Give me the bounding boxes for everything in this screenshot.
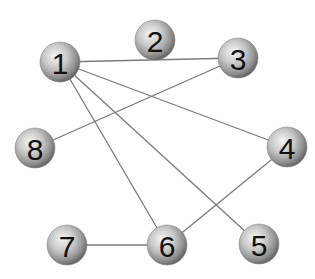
node-8: 8 <box>15 128 55 168</box>
node-2: 2 <box>135 20 175 60</box>
node-3: 3 <box>218 38 258 78</box>
node-label: 5 <box>251 229 268 262</box>
node-5: 5 <box>239 224 279 264</box>
edges-layer <box>35 58 287 245</box>
node-1: 1 <box>40 42 80 82</box>
node-7: 7 <box>47 225 87 265</box>
node-label: 3 <box>230 43 247 76</box>
edge-1-5 <box>60 62 259 244</box>
graph-diagram: 12345678 <box>0 0 315 279</box>
node-4: 4 <box>267 127 307 167</box>
node-label: 1 <box>52 47 69 80</box>
node-6: 6 <box>147 225 187 265</box>
node-label: 2 <box>147 25 164 58</box>
nodes-layer: 12345678 <box>15 20 307 265</box>
node-label: 4 <box>279 132 296 165</box>
edge-1-4 <box>60 62 287 147</box>
node-label: 8 <box>27 133 44 166</box>
edge-1-6 <box>60 62 167 245</box>
node-label: 6 <box>159 230 176 263</box>
node-label: 7 <box>59 230 76 263</box>
